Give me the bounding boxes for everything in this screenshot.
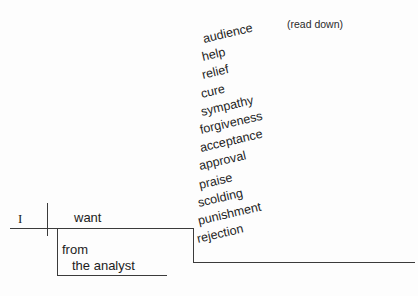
- sentence-diagram-canvas: I want from the analyst (read down) audi…: [0, 0, 418, 296]
- subject-verb-divider: [47, 203, 48, 236]
- baseline-subject-verb: [10, 228, 193, 229]
- direct-object-word: relief: [200, 62, 230, 82]
- preposition-label: from: [62, 243, 88, 256]
- direct-object-word: help: [201, 45, 227, 64]
- direct-object-baseline: [193, 262, 415, 263]
- direct-object-word: cure: [200, 81, 227, 100]
- prepositional-object-baseline: [57, 275, 167, 276]
- direct-object-word: audience: [201, 21, 254, 46]
- verb-label: want: [74, 211, 101, 224]
- subject-label: I: [18, 212, 23, 225]
- read-down-annotation: (read down): [287, 18, 343, 30]
- direct-object-riser: [193, 228, 194, 262]
- preposition-connector: [57, 228, 58, 275]
- prepositional-object-label: the analyst: [72, 259, 135, 272]
